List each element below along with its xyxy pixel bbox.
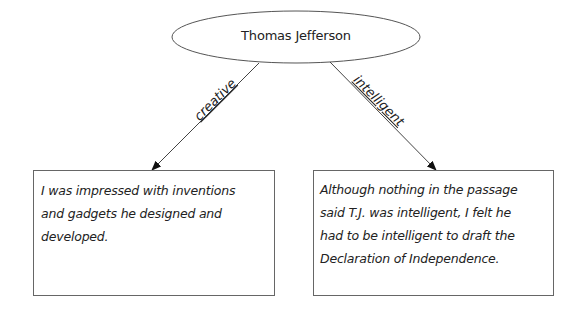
left-box-line: I was impressed with inventions	[41, 179, 273, 202]
right-box-text: Although nothing in the passage said T.J…	[320, 178, 552, 270]
left-box-line: developed.	[41, 225, 273, 248]
left-box-text: I was impressed with inventions and gadg…	[41, 179, 273, 248]
right-box-line: said T.J. was intelligent, I felt he	[320, 201, 552, 224]
right-box-line: Declaration of Independence.	[320, 247, 552, 270]
central-node-label: Thomas Jefferson	[196, 28, 396, 43]
left-box-line: and gadgets he designed and	[41, 202, 273, 225]
right-box-line: had to be intelligent to draft the	[320, 224, 552, 247]
right-box-line: Although nothing in the passage	[320, 178, 552, 201]
